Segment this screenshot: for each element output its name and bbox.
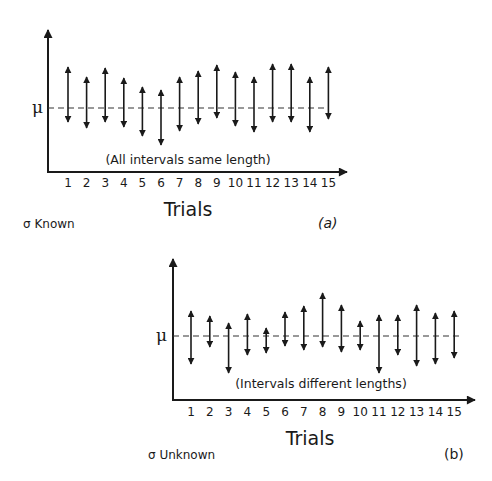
interval-arrows (68, 64, 328, 145)
x-tick-label: 6 (281, 405, 289, 419)
x-tick-label: 12 (265, 176, 280, 190)
x-tick-label: 15 (321, 176, 336, 190)
x-tick-label: 5 (139, 176, 147, 190)
x-tick-labels: 123456789101112131415 (64, 176, 336, 190)
x-tick-label: 10 (353, 405, 368, 419)
x-tick-label: 11 (371, 405, 386, 419)
annotation: (All intervals same length) (105, 152, 270, 167)
x-axis-title: Trials (163, 198, 213, 220)
panel-a-axes (47, 30, 347, 172)
panel-b: μ 123456789101112131415 (Intervals diffe… (148, 259, 475, 462)
annotation: (Intervals different lengths) (235, 376, 407, 391)
caption: σ Unknown (148, 448, 215, 462)
x-tick-label: 9 (338, 405, 346, 419)
x-tick-label: 2 (206, 405, 214, 419)
x-tick-label: 7 (300, 405, 308, 419)
panel-a: μ 123456789101112131415 (All intervals s… (23, 30, 347, 231)
x-tick-label: 13 (409, 405, 424, 419)
x-tick-label: 6 (157, 176, 165, 190)
x-tick-label: 14 (302, 176, 317, 190)
x-tick-label: 14 (428, 405, 443, 419)
interval-arrows (191, 293, 454, 373)
x-tick-label: 1 (187, 405, 195, 419)
x-tick-label: 3 (101, 176, 109, 190)
x-tick-label: 13 (284, 176, 299, 190)
x-tick-label: 15 (447, 405, 462, 419)
x-tick-label: 4 (244, 405, 252, 419)
x-tick-label: 12 (390, 405, 405, 419)
figure-canvas: μ 123456789101112131415 (All intervals s… (0, 0, 492, 481)
mean-label: μ (32, 97, 43, 117)
x-tick-label: 4 (120, 176, 128, 190)
caption: σ Known (23, 217, 75, 231)
x-tick-label: 8 (194, 176, 202, 190)
panel-label: (a) (318, 215, 338, 231)
figure: μ 123456789101112131415 (All intervals s… (0, 0, 492, 481)
x-tick-label: 2 (83, 176, 91, 190)
x-tick-label: 11 (246, 176, 261, 190)
x-tick-label: 5 (262, 405, 270, 419)
x-axis-title: Trials (285, 427, 335, 449)
x-tick-label: 8 (319, 405, 327, 419)
x-tick-label: 10 (228, 176, 243, 190)
mean-label: μ (156, 325, 167, 345)
x-tick-label: 7 (176, 176, 184, 190)
x-tick-label: 9 (213, 176, 221, 190)
x-tick-labels: 123456789101112131415 (187, 405, 462, 419)
x-tick-label: 1 (64, 176, 72, 190)
x-tick-label: 3 (225, 405, 233, 419)
panel-label: (b) (444, 446, 464, 462)
